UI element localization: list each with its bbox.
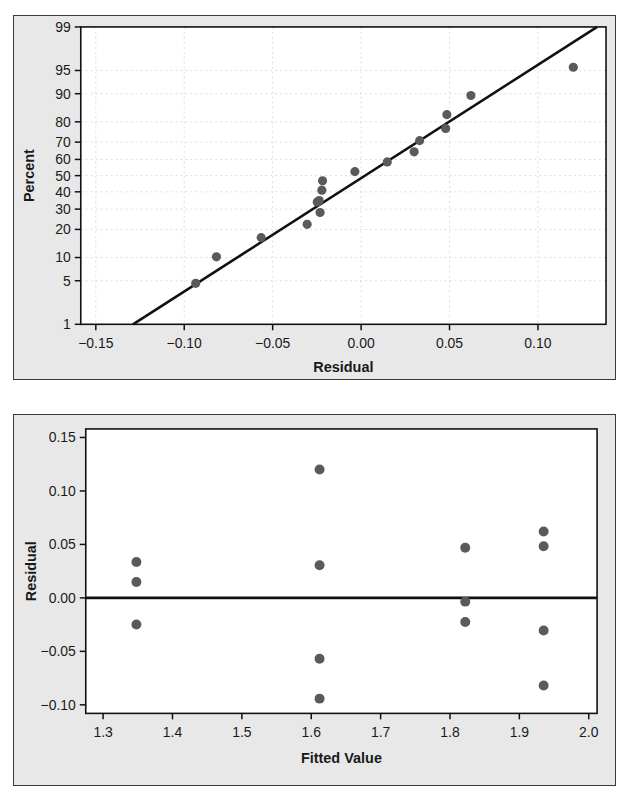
data-point bbox=[315, 196, 324, 205]
y-axis-tick-label: 40 bbox=[55, 184, 71, 200]
residuals-versus-fits-panel: 0.150.100.050.00−0.05−0.101.31.41.51.61.… bbox=[13, 414, 616, 786]
y-axis-tick-label: 95 bbox=[55, 62, 71, 78]
y-axis-tick-label: 0.15 bbox=[49, 429, 76, 445]
y-axis-tick-label: 90 bbox=[55, 86, 71, 102]
y-axis-tick-label: 80 bbox=[55, 114, 71, 130]
normal-probability-plot-panel: 999590807060504030201051−0.15−0.10−0.050… bbox=[13, 15, 616, 380]
data-point bbox=[315, 694, 325, 704]
y-axis-tick-label: 30 bbox=[55, 201, 71, 217]
x-axis-tick-label: 2.0 bbox=[579, 724, 599, 740]
normal-probability-plot-svg: 999590807060504030201051−0.15−0.10−0.050… bbox=[14, 16, 615, 379]
data-point bbox=[539, 541, 549, 551]
data-point bbox=[569, 63, 578, 72]
x-axis-tick-label: 1.9 bbox=[510, 724, 530, 740]
y-axis-title: Residual bbox=[23, 541, 39, 601]
x-axis-tick-label: 0.10 bbox=[524, 335, 551, 351]
x-axis-tick-label: 0.05 bbox=[436, 335, 463, 351]
data-point bbox=[460, 597, 470, 607]
data-point bbox=[303, 220, 312, 229]
y-axis-title: Percent bbox=[21, 149, 37, 202]
data-point bbox=[315, 654, 325, 664]
residuals-versus-fits-svg: 0.150.100.050.00−0.05−0.101.31.41.51.61.… bbox=[14, 415, 615, 785]
figure-page: 999590807060504030201051−0.15−0.10−0.050… bbox=[0, 0, 629, 799]
data-point bbox=[350, 167, 359, 176]
data-point bbox=[318, 176, 327, 185]
data-point bbox=[131, 557, 141, 567]
y-axis-tick-label: 5 bbox=[63, 273, 71, 289]
y-axis-tick-label: 10 bbox=[55, 250, 71, 266]
data-point bbox=[460, 543, 470, 553]
x-axis-tick-label: 1.8 bbox=[440, 724, 460, 740]
y-axis-tick-label: 0.05 bbox=[49, 536, 76, 552]
data-point bbox=[212, 252, 221, 261]
x-axis-tick-label: −0.15 bbox=[78, 335, 114, 351]
y-axis-tick-label: 20 bbox=[55, 221, 71, 237]
data-point bbox=[131, 619, 141, 629]
y-axis-tick-label: 70 bbox=[55, 134, 71, 150]
y-axis-tick-label: 0.00 bbox=[49, 590, 76, 606]
data-point bbox=[415, 136, 424, 145]
data-point bbox=[257, 233, 266, 242]
x-axis-tick-label: 1.3 bbox=[93, 724, 113, 740]
data-point bbox=[317, 186, 326, 195]
y-axis-tick-label: 99 bbox=[55, 19, 71, 35]
y-axis-tick-label: 60 bbox=[55, 151, 71, 167]
data-point bbox=[442, 110, 451, 119]
x-axis-tick-label: 1.5 bbox=[232, 724, 252, 740]
y-axis-tick-label: −0.10 bbox=[41, 697, 77, 713]
data-point bbox=[539, 626, 549, 636]
x-axis-title: Residual bbox=[313, 359, 373, 375]
data-point bbox=[466, 91, 475, 100]
y-axis-tick-label: 50 bbox=[55, 168, 71, 184]
y-axis-tick-label: 1 bbox=[63, 316, 71, 332]
x-axis-tick-label: 0.00 bbox=[348, 335, 375, 351]
data-point bbox=[315, 560, 325, 570]
x-axis-tick-label: −0.10 bbox=[167, 335, 203, 351]
y-axis-tick-label: −0.05 bbox=[41, 643, 77, 659]
plot-area bbox=[86, 429, 597, 713]
data-point bbox=[315, 465, 325, 475]
x-axis-tick-label: 1.6 bbox=[302, 724, 322, 740]
x-axis-title: Fitted Value bbox=[301, 750, 382, 766]
x-axis-tick-label: −0.05 bbox=[255, 335, 291, 351]
data-point bbox=[441, 124, 450, 133]
y-axis-tick-label: 0.10 bbox=[49, 483, 76, 499]
data-point bbox=[131, 577, 141, 587]
data-point bbox=[539, 527, 549, 537]
data-point bbox=[410, 147, 419, 156]
data-point bbox=[191, 279, 200, 288]
data-point bbox=[315, 208, 324, 217]
x-axis-tick-label: 1.4 bbox=[163, 724, 183, 740]
data-point bbox=[460, 617, 470, 627]
data-point bbox=[383, 157, 392, 166]
x-axis-tick-label: 1.7 bbox=[371, 724, 391, 740]
data-point bbox=[539, 681, 549, 691]
